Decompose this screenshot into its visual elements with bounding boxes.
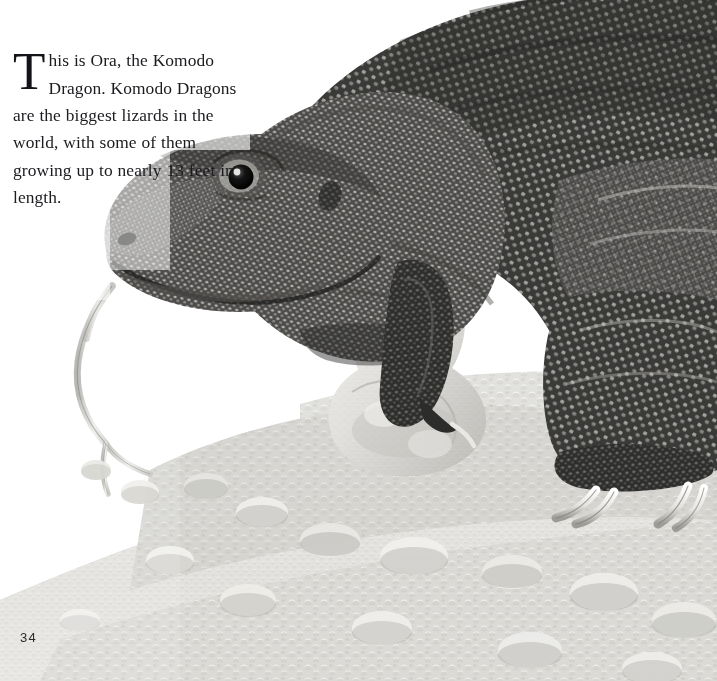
page-number: 34 [20, 630, 37, 645]
book-page: 3 anything they can catch This is Ora, t… [0, 0, 717, 681]
body-paragraph: This is Ora, the Komodo Dragon. Komodo D… [13, 47, 245, 211]
drop-cap: T [13, 47, 47, 93]
body-text-block: This is Ora, the Komodo Dragon. Komodo D… [13, 30, 245, 229]
